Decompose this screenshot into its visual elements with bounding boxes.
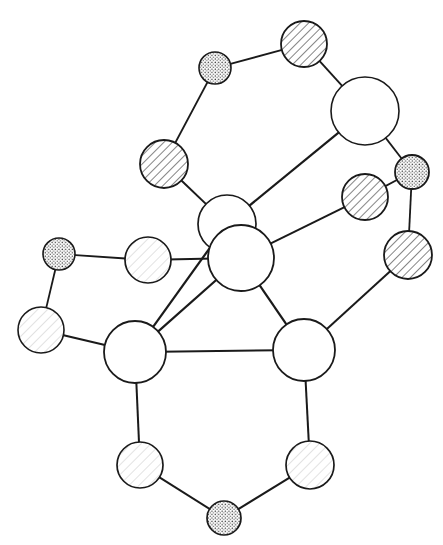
node-circle[interactable]: [199, 52, 231, 84]
graph-node[interactable]: [384, 231, 432, 279]
node-circle[interactable]: [117, 442, 163, 488]
graph-edge: [45, 267, 56, 312]
graph-node[interactable]: [43, 238, 75, 270]
graph-node[interactable]: [208, 225, 274, 291]
graph-edge: [136, 377, 139, 446]
node-circle[interactable]: [286, 441, 334, 489]
graph-edge: [154, 276, 221, 335]
graph-edge: [409, 186, 411, 235]
node-circle[interactable]: [125, 237, 171, 283]
node-circle[interactable]: [43, 238, 75, 270]
graph-node[interactable]: [125, 237, 171, 283]
graph-node[interactable]: [281, 21, 327, 67]
graph-edge: [72, 255, 129, 259]
node-circle[interactable]: [104, 321, 166, 383]
graph-edge: [156, 475, 212, 511]
graph-edge: [236, 475, 293, 510]
graph-node[interactable]: [286, 441, 334, 489]
node-circle[interactable]: [208, 225, 274, 291]
graph-edge: [256, 280, 289, 329]
graph-node[interactable]: [199, 52, 231, 84]
graph-node[interactable]: [140, 140, 188, 188]
node-layer: [18, 21, 432, 535]
node-circle[interactable]: [395, 155, 429, 189]
node-circle[interactable]: [18, 307, 64, 353]
node-circle[interactable]: [140, 140, 188, 188]
node-circle[interactable]: [331, 77, 399, 145]
graph-edge: [167, 259, 214, 260]
graph-node[interactable]: [395, 155, 429, 189]
graph-node[interactable]: [104, 321, 166, 383]
node-circle[interactable]: [281, 21, 327, 67]
graph-node[interactable]: [207, 501, 241, 535]
node-circle[interactable]: [384, 231, 432, 279]
graph-edge: [323, 268, 394, 333]
graph-edge: [228, 49, 286, 65]
graph-edge: [160, 350, 278, 351]
graph-node[interactable]: [331, 77, 399, 145]
node-graph: [0, 0, 443, 545]
graph-edge: [173, 80, 209, 147]
graph-node[interactable]: [117, 442, 163, 488]
graph-node[interactable]: [273, 319, 335, 381]
graph-edge: [265, 205, 348, 246]
node-circle[interactable]: [342, 174, 388, 220]
graph-edge: [178, 178, 210, 208]
graph-edge: [305, 375, 309, 445]
node-circle[interactable]: [207, 501, 241, 535]
node-circle[interactable]: [273, 319, 335, 381]
diagram-canvas: [0, 0, 443, 545]
graph-edge: [245, 129, 343, 209]
graph-edge: [59, 334, 110, 346]
graph-node[interactable]: [18, 307, 64, 353]
graph-node[interactable]: [342, 174, 388, 220]
